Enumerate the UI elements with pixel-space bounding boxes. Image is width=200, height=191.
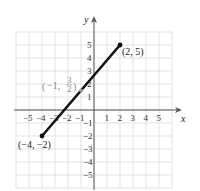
midpoint-label: ( −1, 3 2 ) <box>42 75 76 94</box>
y-tick-label: −5 <box>83 170 93 180</box>
svg-text:): ) <box>73 81 76 93</box>
x-tick-label: 1 <box>105 113 110 123</box>
y-tick-label: 3 <box>87 66 92 76</box>
x-tick-label: 5 <box>157 113 162 123</box>
y-tick-label: −2 <box>83 131 93 141</box>
coordinate-plane: x y −5−4−3−2−112345 54321−1−2−3−4−5 (2, … <box>0 0 200 191</box>
x-tick-label: −4 <box>36 113 46 123</box>
midpoint-denominator: 2 <box>67 84 72 94</box>
y-tick-label: 5 <box>87 40 92 50</box>
midpoint-marker <box>79 89 83 93</box>
end-point-label: (2, 5) <box>122 46 144 58</box>
x-tick-label: 4 <box>144 113 149 123</box>
start-point-marker <box>40 134 45 139</box>
x-tick-label: −5 <box>23 113 33 123</box>
y-tick-label: −1 <box>83 118 93 128</box>
svg-text:(: ( <box>42 81 46 93</box>
x-tick-label: −2 <box>62 113 72 123</box>
x-tick-label: 2 <box>118 113 123 123</box>
y-tick-label: −3 <box>83 144 93 154</box>
x-axis-label: x <box>180 113 186 124</box>
midpoint-x: −1, <box>47 80 60 91</box>
y-tick-label: 1 <box>87 92 92 102</box>
x-tick-label: 3 <box>131 113 136 123</box>
y-tick-label: 4 <box>87 53 92 63</box>
start-point-label: (−4, −2) <box>18 139 51 151</box>
y-axis-label: y <box>83 14 89 25</box>
y-tick-label: −4 <box>83 157 93 167</box>
